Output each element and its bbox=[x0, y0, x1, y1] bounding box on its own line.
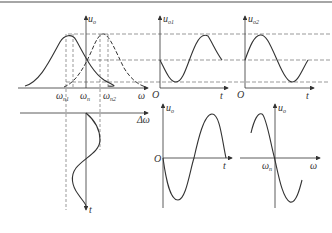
dashed-resonance-curve bbox=[64, 34, 146, 87]
svg-text:ω: ω bbox=[310, 160, 317, 171]
discriminator-diagram: uo ωn1 ωn ωn2 ω uo1 O t uo2 O t Δω t uo … bbox=[0, 0, 332, 233]
svg-text:ω: ω bbox=[138, 90, 145, 101]
svg-text:ωn: ωn bbox=[262, 160, 272, 172]
output2-panel: uo2 O t bbox=[237, 13, 314, 101]
svg-text:uo: uo bbox=[278, 102, 286, 114]
discriminator-panel: uo ωn ω bbox=[240, 102, 320, 208]
svg-text:O: O bbox=[152, 89, 159, 100]
svg-text:O: O bbox=[237, 89, 244, 100]
svg-text:Δω: Δω bbox=[136, 114, 150, 125]
svg-text:ωn: ωn bbox=[80, 90, 90, 102]
svg-text:uo1: uo1 bbox=[163, 13, 174, 25]
output-time-panel: uo O t bbox=[154, 102, 232, 208]
output1-panel: uo1 O t bbox=[152, 13, 228, 101]
svg-text:uo2: uo2 bbox=[248, 13, 259, 25]
svg-text:t: t bbox=[220, 90, 223, 101]
svg-text:t: t bbox=[89, 204, 92, 215]
svg-text:uo: uo bbox=[166, 102, 174, 114]
svg-text:O: O bbox=[154, 153, 161, 164]
svg-text:uo: uo bbox=[88, 13, 96, 25]
svg-text:ωn2: ωn2 bbox=[103, 90, 116, 102]
deviation-panel: Δω t bbox=[20, 113, 150, 215]
solid-resonance-curve bbox=[25, 36, 114, 87]
svg-text:t: t bbox=[223, 160, 226, 171]
svg-text:t: t bbox=[306, 90, 309, 101]
svg-text:ωn1: ωn1 bbox=[56, 90, 69, 102]
